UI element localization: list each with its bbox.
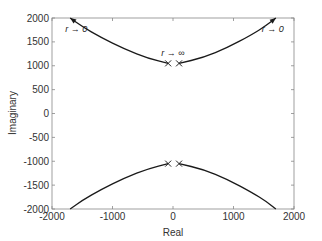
- y-tick-label: 500: [32, 84, 49, 95]
- y-tick-label: -500: [29, 132, 49, 143]
- y-tick-label: -1500: [23, 180, 49, 191]
- y-tick-label: 1000: [27, 60, 50, 71]
- y-tick-label: 0: [43, 108, 49, 119]
- annotation-label: r → 0: [65, 24, 87, 34]
- y-axis-label: Imaginary: [7, 91, 18, 135]
- annotation-label: r → ∞: [161, 48, 184, 58]
- y-tick-label: -2000: [23, 204, 49, 215]
- y-tick-label: 2000: [27, 13, 50, 24]
- x-tick-label: -1000: [100, 211, 126, 222]
- root-locus-chart: -2000-1000010002000 2000150010005000-500…: [0, 0, 322, 241]
- x-tick-label: 0: [170, 211, 176, 222]
- x-axis-label: Real: [163, 227, 184, 238]
- plot-frame: [52, 18, 294, 209]
- x-tick-label: 1000: [222, 211, 245, 222]
- x-tick-label: 2000: [283, 211, 306, 222]
- annotation-label: r → 0: [262, 24, 284, 34]
- y-tick-label: -1000: [23, 156, 49, 167]
- y-tick-label: 1500: [27, 36, 50, 47]
